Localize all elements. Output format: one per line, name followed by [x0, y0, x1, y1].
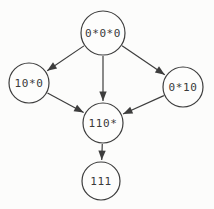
node-label: 0*0*0 [85, 27, 121, 40]
node-label: 0*10 [169, 81, 198, 94]
node-label: 110* [89, 117, 118, 130]
edge-arrow [102, 144, 103, 160]
edge-arrow [123, 96, 164, 114]
node-label: 111 [90, 175, 112, 188]
graph-svg: 0*0*010*00*10110*111 [0, 0, 214, 209]
edge-arrow [47, 46, 84, 71]
edge-arrow [47, 93, 83, 113]
edge-arrow [122, 46, 165, 75]
node-label: 10*0 [15, 77, 44, 90]
diagram-canvas: 0*0*010*00*10110*111 [0, 0, 214, 209]
